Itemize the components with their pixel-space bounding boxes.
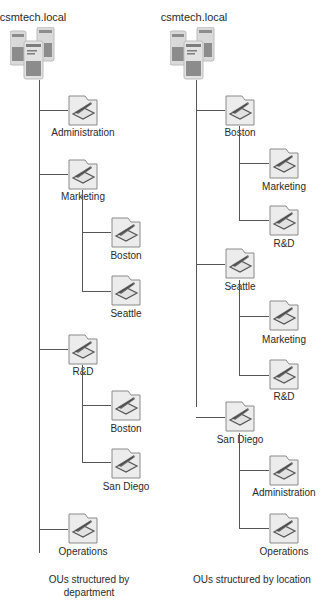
tree-connector — [239, 220, 269, 221]
tree-connector — [239, 316, 269, 317]
ou-folder-icon[interactable] — [269, 205, 299, 236]
tree-connector — [239, 375, 269, 376]
ou-label-seattle: Seattle — [224, 281, 255, 292]
tree-connector — [82, 405, 111, 406]
left-root-label: csmtech.local — [0, 11, 66, 23]
tree-connector — [82, 190, 83, 292]
ou-folder-icon[interactable] — [225, 95, 255, 126]
ou-folder-icon[interactable] — [225, 401, 255, 432]
tree-connector — [239, 280, 240, 376]
ou-label-boston: Boston — [110, 250, 141, 261]
ou-label-rd: R&D — [72, 366, 93, 377]
tree-connector — [239, 470, 269, 471]
tree-connector — [239, 126, 240, 221]
ou-label-seattle: Seattle — [110, 308, 141, 319]
ou-folder-icon[interactable] — [269, 455, 299, 486]
ou-label-operations: Operations — [59, 546, 108, 557]
tree-connector — [239, 433, 240, 529]
ou-folder-icon[interactable] — [68, 334, 98, 365]
tree-connector — [39, 80, 40, 553]
ou-label-boston: Boston — [224, 127, 255, 138]
ou-label-marketing: Marketing — [262, 334, 306, 345]
ou-folder-icon[interactable] — [111, 275, 141, 306]
tree-connector — [82, 291, 111, 292]
ou-folder-icon[interactable] — [269, 359, 299, 390]
ou-label-administration: Administration — [252, 487, 315, 498]
tree-connector — [196, 264, 225, 265]
ou-folder-icon[interactable] — [68, 513, 98, 544]
right-root-label: csmtech.local — [161, 11, 228, 23]
tree-connector — [196, 80, 197, 407]
ou-folder-icon[interactable] — [111, 217, 141, 248]
ou-label-marketing: Marketing — [262, 181, 306, 192]
right-caption: OUs structured by location — [192, 573, 312, 586]
ou-folder-icon[interactable] — [225, 248, 255, 279]
ou-folder-icon[interactable] — [269, 300, 299, 331]
ou-folder-icon[interactable] — [68, 159, 98, 190]
tree-connector — [239, 528, 269, 529]
tree-connector — [239, 163, 269, 164]
ou-label-operations: Operations — [260, 546, 309, 557]
tree-connector — [39, 174, 68, 175]
tree-connector — [82, 462, 111, 463]
ou-folder-icon[interactable] — [68, 95, 98, 126]
tree-connector — [196, 417, 225, 418]
ou-label-rd: R&D — [273, 391, 294, 402]
ou-label-administration: Administration — [51, 127, 114, 138]
ou-folder-icon[interactable] — [111, 448, 141, 479]
tree-connector — [82, 365, 83, 463]
tree-connector — [39, 349, 68, 350]
tree-connector — [39, 529, 68, 530]
ou-label-rd: R&D — [273, 238, 294, 249]
ou-label-boston: Boston — [110, 423, 141, 434]
domain-servers-icon — [170, 27, 216, 81]
tree-connector — [196, 110, 225, 111]
tree-connector — [82, 232, 111, 233]
ou-folder-icon[interactable] — [111, 390, 141, 421]
ou-folder-icon[interactable] — [269, 148, 299, 179]
ou-label-san-diego: San Diego — [103, 481, 150, 492]
ou-label-san-diego: San Diego — [217, 434, 264, 445]
ou-folder-icon[interactable] — [269, 513, 299, 544]
ou-label-marketing: Marketing — [61, 191, 105, 202]
tree-connector — [39, 110, 68, 111]
domain-servers-icon — [10, 27, 56, 81]
left-caption: OUs structured by department — [29, 573, 149, 599]
